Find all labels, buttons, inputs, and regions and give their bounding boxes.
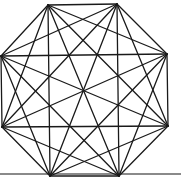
octagon-diagonal xyxy=(1,54,167,56)
octagon-side xyxy=(167,54,168,126)
octagon-side xyxy=(117,4,167,54)
octagon-diagonal xyxy=(48,5,50,176)
octagon-side xyxy=(1,56,2,127)
octagon-side xyxy=(2,127,50,176)
octagon-diagonal xyxy=(48,5,168,126)
octagon-diagonal xyxy=(117,4,119,176)
octagon-diagonal xyxy=(50,54,167,176)
octagon-diagonal xyxy=(2,4,117,127)
octagon-diagonal xyxy=(2,126,168,127)
octagon-side xyxy=(1,5,48,56)
octagon-side xyxy=(48,4,117,5)
octagon-edges xyxy=(1,4,168,176)
complete-octagon-diagram xyxy=(0,0,181,178)
octagon-side xyxy=(119,126,168,176)
octagon-diagonal xyxy=(50,126,168,176)
octagon-diagonal xyxy=(1,56,119,176)
